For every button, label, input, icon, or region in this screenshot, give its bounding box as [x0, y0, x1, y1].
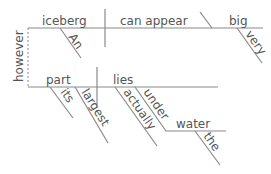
word-can-appear: can appear [120, 14, 188, 28]
word-big: big [229, 14, 248, 28]
word-an: An [66, 31, 87, 52]
predicate-adjective-divider [200, 12, 212, 28]
sentence-diagram: iceberg can appear big An very however p… [0, 0, 271, 174]
word-water: water [176, 117, 210, 131]
word-very: very [243, 28, 270, 58]
word-part: part [46, 73, 71, 87]
word-the: the [201, 130, 224, 154]
word-iceberg: iceberg [42, 14, 87, 28]
word-lies: lies [113, 73, 133, 87]
word-its: its [58, 86, 78, 106]
word-however: however [12, 30, 26, 82]
